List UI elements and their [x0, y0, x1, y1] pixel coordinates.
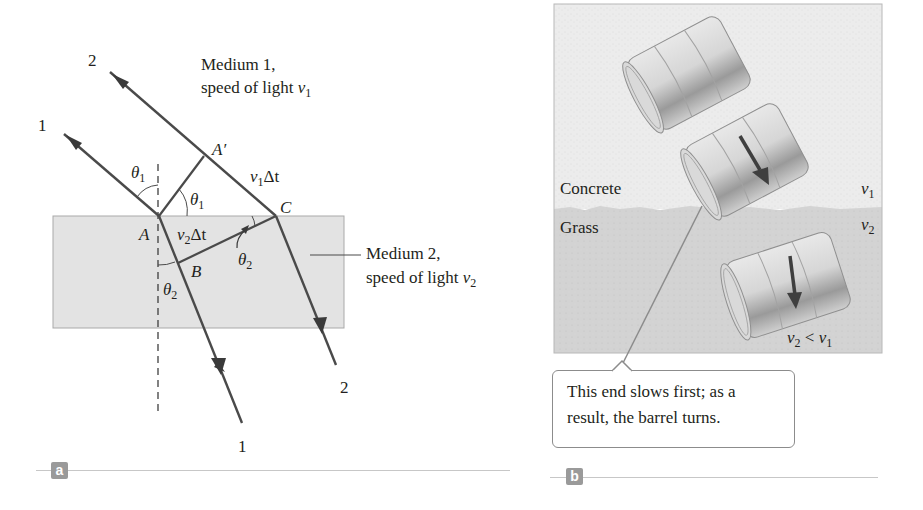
medium-2-line1: Medium 2, [366, 244, 441, 263]
speed-relation-label: v2 < v1 [787, 328, 832, 350]
callout-line-2: result, the barrel turns. [567, 405, 794, 431]
ray-2-label-out: 2 [340, 378, 349, 397]
v2-delta-t-label: v2Δt [177, 225, 206, 247]
panel-a-rule [36, 470, 510, 471]
panel-a-diagram: 2 1 1 2 Medium 1, speed of light v1 Medi… [38, 51, 476, 456]
grass-label: Grass [560, 218, 599, 237]
callout-line-1: This end slows first; as a [567, 379, 794, 405]
point-A-prime-label: A′ [211, 140, 226, 159]
panel-b-rule [550, 477, 878, 478]
point-A-label: A [138, 225, 150, 244]
theta1-arc-wavefront [179, 189, 187, 216]
ray-1-label-out: 1 [238, 437, 247, 456]
theta1-label-incident: θ1 [131, 163, 145, 185]
theta1-arc-incident [137, 185, 158, 197]
v1-delta-t-label: v1Δt [250, 167, 279, 189]
medium-2-line2: speed of light v2 [366, 268, 476, 290]
ray-1-arrow-tip [211, 358, 226, 375]
point-C-label: C [280, 198, 292, 217]
ray-1-label-in: 1 [38, 116, 47, 135]
theta1-label-wavefront: θ1 [190, 190, 204, 212]
concrete-label: Concrete [560, 179, 621, 198]
ray-2-label-in: 2 [88, 51, 97, 70]
medium-1-line1: Medium 1, [201, 55, 276, 74]
callout-box: This end slows first; as a result, the b… [552, 370, 795, 448]
panel-a-tag: a [51, 462, 68, 479]
panel-b-illustration: Concrete Grass v1 v2 v2 < v1 [554, 4, 882, 365]
medium-1-line2: speed of light v1 [201, 78, 311, 100]
panel-b-tag: b [566, 468, 583, 485]
point-B-label: B [191, 262, 202, 281]
